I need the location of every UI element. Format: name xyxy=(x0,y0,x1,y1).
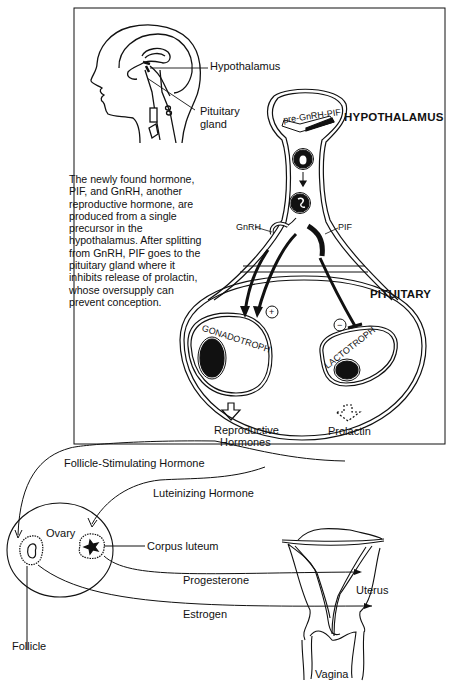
progesterone-label: Progesterone xyxy=(183,574,249,587)
gonadotroph-cell xyxy=(188,313,272,396)
uterus-vagina-icon xyxy=(282,529,384,680)
progesterone-pathway-line xyxy=(104,556,360,574)
gnrh-label: GnRH xyxy=(236,221,261,234)
corpus-luteum-label: Corpus luteum xyxy=(147,540,219,553)
prolactin-dashed-arrow-icon xyxy=(336,405,360,421)
pif-label: PIF xyxy=(338,221,352,234)
head-profile-icon xyxy=(91,25,200,143)
pituitary-heading: PITUITARY xyxy=(370,288,431,301)
ovary-label: Ovary xyxy=(46,527,75,540)
pif-inhibit-line xyxy=(320,258,355,326)
estrogen-label: Estrogen xyxy=(183,608,227,621)
prolactin-label: Prolactin xyxy=(328,425,371,438)
uterus-label: Uterus xyxy=(356,584,388,597)
plus-sign: + xyxy=(269,306,274,319)
follicle-icon xyxy=(20,536,43,565)
hypothalamus-head-label: Hypothalamus xyxy=(210,60,280,73)
description-paragraph: The newly found hormone, PIF, and GnRH, … xyxy=(69,173,209,308)
lh-label: Luteinizing Hormone xyxy=(153,487,254,500)
pituitary-head-label-1: Pituitary xyxy=(200,105,240,118)
reproductive-hormones-label-2: Hormones xyxy=(220,436,271,449)
fsh-label: Follicle-Stimulating Hormone xyxy=(64,457,205,470)
minus-sign: − xyxy=(337,319,342,332)
pituitary-head-label-2: gland xyxy=(200,118,227,131)
follicle-label: Follicle xyxy=(12,640,46,653)
gnrh-stimulus-arrow-2 xyxy=(258,234,296,312)
hypothalamus-heading: HYPOTHALAMUS xyxy=(344,111,444,124)
vagina-label: Vagina xyxy=(315,668,348,681)
